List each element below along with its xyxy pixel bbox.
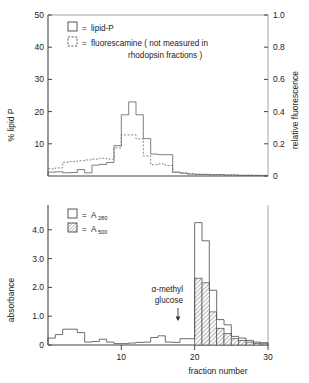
annotation-line1: α-methyl [151, 285, 183, 294]
bottom-ytick-1_0: 1.0 [32, 311, 44, 321]
legend-eq-a500: = [82, 225, 87, 234]
bottom-x-axis-title: fraction number [188, 366, 247, 376]
chart-svg: 50 40 30 20 10 1.0 0.8 0.6 0.4 0.2 0 % l… [0, 0, 309, 383]
top-ytick-10: 10 [35, 139, 45, 149]
figure-container: 50 40 30 20 10 1.0 0.8 0.6 0.4 0.2 0 % l… [0, 0, 309, 383]
top-ytick-40: 40 [35, 42, 45, 52]
top-y2tick-0_4: 0.4 [273, 107, 285, 117]
legend-swatch-a500 [68, 223, 77, 232]
top-y-axis-title: % lipid P [6, 108, 16, 141]
top-ytick-30: 30 [35, 74, 45, 84]
legend-eq-a280: = [82, 211, 87, 220]
legend-label-a280: A [91, 211, 97, 220]
legend-eq-fluorescamine: = [82, 39, 87, 48]
top-y2tick-0_8: 0.8 [273, 42, 285, 52]
top-y2tick-1_0: 1.0 [273, 10, 285, 20]
legend-swatch-fluorescamine [68, 37, 77, 46]
legend-eq-lipid-p: = [82, 24, 87, 33]
legend-label-fluorescamine-line2: rhodopsin fractions ) [128, 51, 202, 60]
top-y2-axis-title: relative fluorescence [290, 71, 300, 149]
top-ytick-20: 20 [35, 107, 45, 117]
legend-label-fluorescamine-line1: fluorescamine ( not measured in [91, 39, 208, 48]
legend-sub-a500: 500 [98, 229, 107, 235]
bottom-xtick-10: 10 [117, 352, 127, 362]
bottom-ytick-3_0: 3.0 [32, 254, 44, 264]
bottom-ytick-0: 0 [39, 340, 44, 350]
legend-swatch-a280 [68, 209, 77, 218]
bottom-xtick-20: 20 [190, 352, 200, 362]
bottom-ytick-4_0: 4.0 [32, 225, 44, 235]
legend-label-a500: A [91, 225, 97, 234]
top-y2tick-0_2: 0.2 [273, 139, 285, 149]
legend-swatch-lipid-p [68, 22, 77, 31]
top-ytick-50: 50 [35, 10, 45, 20]
bottom-ytick-2_0: 2.0 [32, 282, 44, 292]
top-y2tick-0: 0 [273, 171, 278, 181]
legend-sub-a280: 280 [98, 215, 107, 221]
top-y2tick-0_6: 0.6 [273, 74, 285, 84]
bottom-xtick-30: 30 [263, 352, 273, 362]
annotation-line2: glucose [155, 296, 184, 305]
bottom-y-axis-title: absorbance [6, 278, 16, 323]
legend-label-lipid-p: lipid-P [91, 24, 114, 33]
